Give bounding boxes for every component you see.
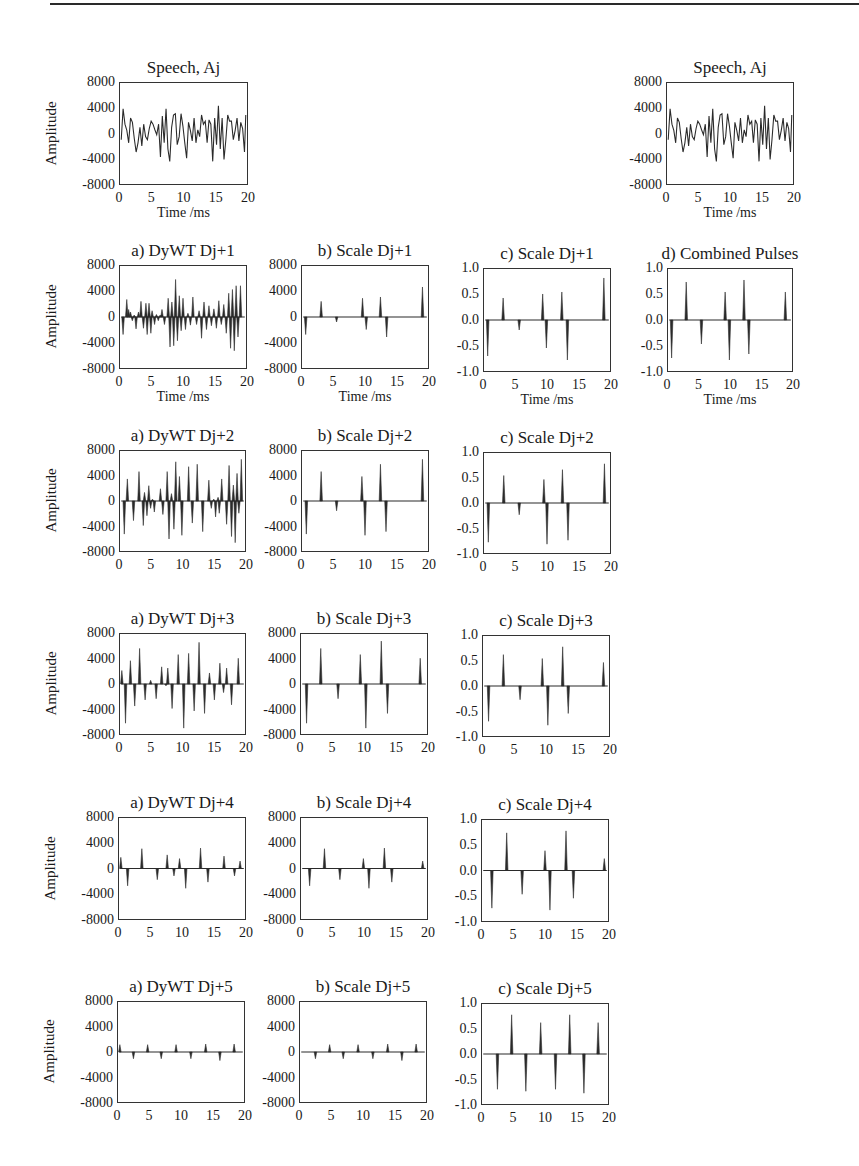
y-tick-label: -8000	[65, 728, 115, 742]
x-tick-label: 20	[234, 558, 258, 572]
x-tick-label: 0	[471, 378, 495, 392]
pulse-stem	[305, 501, 308, 534]
x-tick-label: 0	[107, 191, 131, 205]
pulse-stem	[180, 317, 183, 331]
x-axis-label: Time /ms	[118, 389, 248, 405]
pulse-stem	[177, 655, 180, 684]
pulse-stem	[129, 312, 132, 317]
pulse-stem	[126, 869, 129, 886]
pulse-stem	[237, 317, 240, 337]
x-tick-label: 5	[502, 743, 526, 757]
pulse-stem	[421, 287, 424, 317]
pulse-stem	[146, 317, 149, 335]
pulse-stem	[119, 1045, 122, 1052]
y-tick-label: 8000	[247, 258, 297, 272]
x-tick-label: 0	[655, 378, 679, 392]
x-tick-label: 0	[105, 1109, 129, 1123]
plot-svg	[482, 820, 608, 921]
pulse-stem	[181, 501, 184, 535]
y-tick-label: -8000	[63, 1096, 113, 1110]
plot-svg	[484, 453, 610, 553]
pulse-stem	[543, 479, 546, 503]
x-tick-label: 15	[384, 741, 408, 755]
pulse-stem	[203, 302, 206, 317]
x-tick-label: 10	[353, 375, 377, 389]
pulse-stem	[487, 686, 490, 721]
y-tick-label: -4000	[65, 152, 115, 166]
pulse-stem	[305, 684, 308, 723]
pulse-stem	[229, 317, 232, 348]
pulse-stem	[308, 869, 311, 886]
y-tick-label: 0	[65, 310, 115, 324]
pulse-stem	[171, 302, 174, 317]
y-tick-label: 1.0	[427, 996, 477, 1010]
pulse-stem	[238, 501, 241, 513]
pulse-stem	[161, 309, 164, 317]
x-tick-label: 5	[321, 558, 345, 572]
x-tick-label: 0	[288, 741, 312, 755]
y-tick-label: 8000	[246, 810, 296, 824]
x-tick-label: 0	[287, 1109, 311, 1123]
y-tick-label: 0.0	[428, 679, 478, 693]
y-tick-label: 4000	[247, 469, 297, 483]
pulse-stem	[133, 684, 136, 706]
y-tick-label: 1.0	[429, 261, 479, 275]
x-tick-label: 10	[170, 926, 194, 940]
pulse-stem	[239, 286, 242, 317]
x-tick-label: 5	[137, 1109, 161, 1123]
plot-area	[119, 265, 247, 369]
pulse-stem	[123, 501, 126, 534]
pulse-stem	[603, 859, 606, 871]
x-tick-label: 5	[686, 191, 710, 205]
pulse-stem	[743, 280, 746, 320]
x-tick-label: 5	[139, 191, 163, 205]
pulse-stem	[561, 470, 564, 503]
pulse-stem	[235, 286, 238, 317]
pulse-stem	[521, 871, 524, 895]
pulse-stem	[510, 1015, 513, 1054]
plot-svg	[301, 818, 427, 919]
plot-svg	[118, 1002, 244, 1102]
y-tick-label: 4000	[63, 1020, 113, 1034]
y-tick-label: 4000	[65, 101, 115, 115]
pulse-stem	[419, 658, 422, 684]
pulse-stem	[572, 871, 575, 899]
x-tick-label: 5	[139, 375, 163, 389]
pulse-stem	[149, 501, 152, 508]
pulse-stem	[225, 501, 228, 524]
plot-svg	[667, 83, 793, 184]
y-tick-label: 8000	[246, 626, 296, 640]
x-tick-label: 15	[203, 375, 227, 389]
plot-svg	[302, 266, 428, 368]
pulse-stem	[314, 1052, 317, 1059]
pulse-stem	[415, 1044, 418, 1052]
pulse-stem	[561, 647, 564, 686]
pulse-stem	[547, 686, 550, 725]
x-tick-label: 5	[501, 928, 525, 942]
x-tick-label: 15	[567, 378, 591, 392]
pulse-stem	[131, 317, 134, 321]
pulse-stem	[379, 464, 382, 501]
y-tick-label: 8000	[65, 443, 115, 457]
y-tick-label: 8000	[65, 75, 115, 89]
x-tick-label: 0	[470, 743, 494, 757]
plot-area	[301, 450, 429, 552]
pulse-stem	[174, 462, 177, 501]
y-axis-label: Amplitude	[42, 823, 59, 913]
pulse-stem	[567, 686, 570, 713]
plot-area	[482, 635, 610, 737]
pulse-stem	[223, 856, 226, 868]
y-axis-label: Amplitude	[43, 88, 60, 178]
pulse-stem	[160, 1052, 163, 1059]
pulse-stem	[173, 501, 176, 529]
x-tick-label: 0	[289, 558, 313, 572]
page-top-rule	[50, 3, 859, 5]
plot-svg	[301, 634, 427, 734]
pulse-stem	[214, 501, 217, 517]
pulse-stem	[568, 1015, 571, 1054]
pulse-stem	[171, 684, 174, 709]
x-tick-label: 15	[202, 741, 226, 755]
y-tick-label: 0.5	[427, 1022, 477, 1036]
pulse-stem	[150, 317, 153, 333]
y-tick-label: 8000	[245, 994, 295, 1008]
